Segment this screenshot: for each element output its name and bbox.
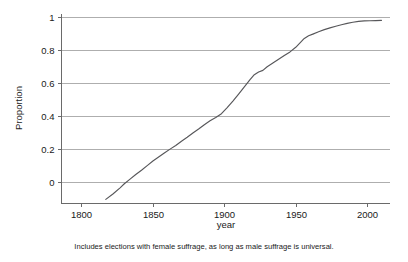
y-axis-title: Proportion [13, 86, 24, 130]
y-tick-label: 0 [49, 177, 54, 188]
x-tick-label: 1950 [286, 209, 307, 220]
y-tick-label: 0.6 [41, 78, 54, 89]
y-tick-label: 0.8 [41, 45, 54, 56]
x-tick-label: 2000 [357, 209, 378, 220]
chart-caption: Includes elections with female suffrage,… [74, 242, 333, 251]
x-tick-label: 1850 [143, 209, 164, 220]
line-chart: 00.20.40.60.81 18001850190019502000 Prop… [0, 0, 408, 262]
x-tick-label: 1800 [71, 209, 92, 220]
y-tick-label: 0.2 [41, 144, 54, 155]
y-tick-label: 0.4 [41, 111, 54, 122]
y-tick-label: 1 [49, 12, 54, 23]
chart-figure: 00.20.40.60.81 18001850190019502000 Prop… [0, 0, 408, 262]
x-axis-title: year [217, 219, 235, 230]
x-tick-label: 1900 [214, 209, 235, 220]
